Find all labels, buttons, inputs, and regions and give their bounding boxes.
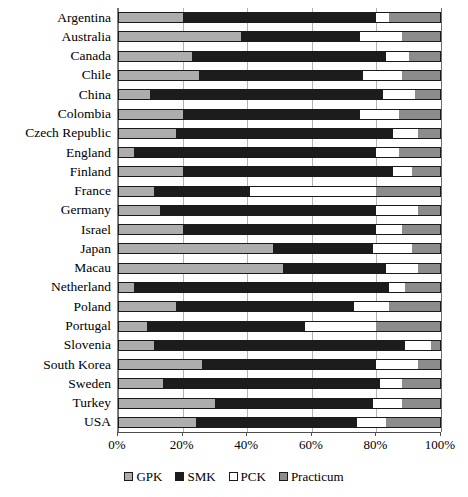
- bar-segment-pck: [376, 147, 399, 158]
- bar-segment-practicum: [399, 147, 441, 158]
- bar-segment-smk: [160, 205, 376, 216]
- bar-segment-smk: [215, 398, 373, 409]
- bar-segment-practicum: [376, 186, 441, 197]
- bar-segment-gpk: [118, 147, 134, 158]
- bar-segment-smk: [176, 128, 392, 139]
- category-label: Portugal: [65, 318, 111, 334]
- bar-segment-gpk: [118, 205, 160, 216]
- bar-row: [118, 128, 441, 139]
- x-tick-mark: [375, 432, 376, 436]
- legend-item-gpk[interactable]: GPK: [124, 470, 162, 483]
- bar-row: [118, 398, 441, 409]
- category-label: Canada: [71, 48, 111, 64]
- bar-segment-gpk: [118, 128, 176, 139]
- bar-segment-gpk: [118, 398, 215, 409]
- bar-segment-smk: [183, 109, 361, 120]
- bar-segment-practicum: [431, 340, 441, 351]
- bar-row: [118, 224, 441, 235]
- category-label: Israel: [81, 222, 111, 238]
- legend-item-smk[interactable]: SMK: [175, 470, 215, 483]
- legend-label: Practicum: [291, 470, 344, 483]
- bar-segment-practicum: [415, 89, 441, 100]
- bar-row: [118, 31, 441, 42]
- bar-segment-smk: [134, 282, 389, 293]
- bar-segment-gpk: [118, 186, 154, 197]
- bar-segment-pck: [386, 51, 409, 62]
- bar-segment-gpk: [118, 89, 150, 100]
- bar-row: [118, 378, 441, 389]
- x-tick-label: 80%: [353, 437, 397, 453]
- legend-label: SMK: [187, 470, 215, 483]
- bar-segment-practicum: [402, 31, 441, 42]
- bar-segment-practicum: [386, 417, 441, 428]
- bar-row: [118, 186, 441, 197]
- bar-row: [118, 109, 441, 120]
- bar-segment-gpk: [118, 109, 183, 120]
- bar-segment-practicum: [389, 301, 441, 312]
- x-tick-mark: [182, 432, 183, 436]
- category-label: England: [66, 145, 111, 161]
- bar-segment-practicum: [405, 282, 441, 293]
- bar-segment-gpk: [118, 263, 283, 274]
- category-label: Czech Republic: [25, 125, 111, 141]
- x-axis-line: [117, 432, 441, 433]
- bar-segment-gpk: [118, 359, 202, 370]
- bar-row: [118, 263, 441, 274]
- bar-segment-gpk: [118, 301, 176, 312]
- bar-segment-practicum: [418, 205, 441, 216]
- bar-segment-pck: [376, 205, 418, 216]
- bar-row: [118, 301, 441, 312]
- bar-segment-pck: [354, 301, 390, 312]
- bar-segment-gpk: [118, 417, 196, 428]
- plot-area: [117, 8, 441, 432]
- bar-segment-pck: [376, 359, 418, 370]
- bar-segment-gpk: [118, 51, 192, 62]
- bar-segment-gpk: [118, 321, 147, 332]
- category-label: Netherland: [51, 279, 111, 295]
- gridline-100pct: [441, 8, 442, 432]
- bar-row: [118, 147, 441, 158]
- bar-segment-pck: [373, 243, 412, 254]
- category-label: Poland: [73, 299, 111, 315]
- legend-label: GPK: [136, 470, 162, 483]
- bar-segment-smk: [283, 263, 386, 274]
- bar-row: [118, 243, 441, 254]
- bar-segment-pck: [380, 378, 403, 389]
- bar-row: [118, 340, 441, 351]
- bar-segment-gpk: [118, 224, 183, 235]
- bar-row: [118, 282, 441, 293]
- bar-segment-practicum: [402, 398, 441, 409]
- bar-segment-smk: [154, 340, 406, 351]
- legend-item-pck[interactable]: PCK: [229, 470, 266, 483]
- category-label: Colombia: [58, 106, 111, 122]
- category-label: Sweden: [68, 376, 111, 392]
- x-tick-label: 60%: [289, 437, 333, 453]
- category-axis-labels: ArgentinaAustraliaCanadaChileChinaColomb…: [0, 8, 115, 432]
- category-label: Argentina: [57, 10, 111, 26]
- stacked-bar-chart: ArgentinaAustraliaCanadaChileChinaColomb…: [0, 0, 468, 497]
- bar-segment-smk: [192, 51, 386, 62]
- bar-segment-smk: [183, 224, 377, 235]
- bar-segment-pck: [376, 224, 402, 235]
- category-label: France: [74, 183, 111, 199]
- bar-segment-practicum: [412, 243, 441, 254]
- bar-segment-pck: [386, 263, 418, 274]
- legend-item-practicum[interactable]: Practicum: [279, 470, 344, 483]
- bar-row: [118, 417, 441, 428]
- category-label: Japan: [80, 241, 111, 257]
- bar-segment-gpk: [118, 31, 241, 42]
- bar-row: [118, 51, 441, 62]
- bar-segment-practicum: [418, 263, 441, 274]
- bar-segment-gpk: [118, 166, 183, 177]
- bar-segment-practicum: [418, 128, 441, 139]
- x-tick-label: 20%: [160, 437, 204, 453]
- x-tick-mark: [246, 432, 247, 436]
- bar-segment-practicum: [412, 166, 441, 177]
- x-tick-mark: [311, 432, 312, 436]
- legend-swatch-icon: [229, 472, 238, 481]
- category-label: USA: [84, 414, 111, 430]
- bar-segment-practicum: [389, 12, 441, 23]
- bar-segment-pck: [393, 128, 419, 139]
- bar-segment-practicum: [402, 70, 441, 81]
- chart-legend: GPKSMKPCKPracticum: [0, 470, 468, 483]
